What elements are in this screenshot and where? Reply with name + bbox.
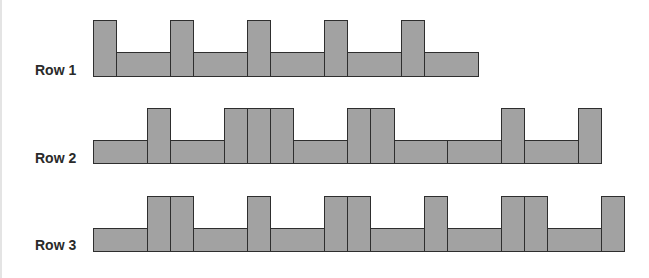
short-bar — [193, 52, 248, 77]
tall-bar — [224, 108, 248, 164]
short-bar — [347, 52, 402, 77]
tall-bar — [270, 108, 294, 164]
tall-bar — [324, 196, 348, 252]
tall-bar — [347, 108, 371, 164]
short-bar — [370, 228, 425, 252]
tall-bar — [170, 20, 194, 77]
short-bar — [394, 140, 448, 164]
tall-bar — [93, 20, 117, 77]
short-bar — [447, 140, 502, 164]
tall-bar — [147, 196, 171, 252]
row-2-label: Row 2 — [35, 150, 76, 166]
short-bar — [93, 140, 148, 164]
row-1-label: Row 1 — [35, 62, 76, 78]
short-bar — [547, 228, 602, 252]
tall-bar — [501, 108, 525, 164]
tall-bar — [324, 20, 348, 77]
tall-bar — [347, 196, 371, 252]
tall-bar — [601, 196, 625, 252]
tall-bar — [247, 20, 271, 77]
tall-bar — [578, 108, 602, 164]
short-bar — [93, 228, 148, 252]
short-bar — [170, 140, 225, 164]
short-bar — [447, 228, 502, 252]
left-border-line — [0, 0, 2, 278]
tall-bar — [247, 196, 271, 252]
short-bar — [270, 52, 325, 77]
tall-bar — [424, 196, 448, 252]
tall-bar — [247, 108, 271, 164]
tall-bar — [170, 196, 194, 252]
short-bar — [116, 52, 171, 77]
short-bar — [424, 52, 479, 77]
tall-bar — [147, 108, 171, 164]
row-3-label: Row 3 — [35, 237, 76, 253]
short-bar — [293, 140, 348, 164]
tall-bar — [401, 20, 425, 77]
tall-bar — [524, 196, 548, 252]
short-bar — [193, 228, 248, 252]
short-bar — [270, 228, 325, 252]
short-bar — [524, 140, 579, 164]
tall-bar — [501, 196, 525, 252]
tall-bar — [370, 108, 395, 164]
